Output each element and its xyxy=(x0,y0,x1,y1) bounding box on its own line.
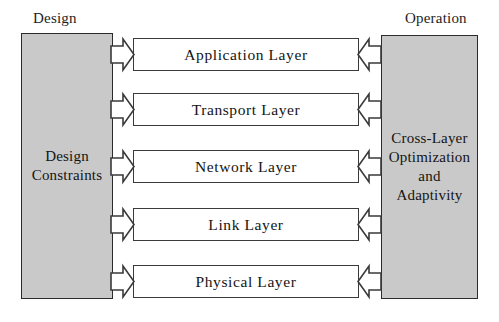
arrow-design-to-transport-icon xyxy=(111,94,135,125)
layer-label-link: Link Layer xyxy=(208,216,283,234)
layer-label-physical: Physical Layer xyxy=(196,273,297,291)
arrow-operation-to-transport-icon xyxy=(358,94,382,125)
design-constraints-label: Design Constraints xyxy=(30,147,105,185)
cross-layer-optimization-label: Cross-Layer Optimization and Adaptivity xyxy=(387,129,473,205)
layer-label-network: Network Layer xyxy=(195,158,297,176)
layer-label-application: Application Layer xyxy=(184,46,307,64)
design-constraints-block: Design Constraints xyxy=(21,33,113,299)
layer-box-network: Network Layer xyxy=(133,150,359,183)
arrow-design-to-physical-icon xyxy=(111,266,135,297)
arrow-design-to-network-icon xyxy=(111,151,135,182)
arrow-design-to-link-icon xyxy=(111,209,135,240)
layer-box-application: Application Layer xyxy=(133,38,359,71)
arrow-operation-to-link-icon xyxy=(358,209,382,240)
arrow-operation-to-physical-icon xyxy=(358,266,382,297)
layer-box-link: Link Layer xyxy=(133,208,359,241)
layer-box-physical: Physical Layer xyxy=(133,265,359,298)
diagram-canvas: Design Operation Design Constraints Cros… xyxy=(0,0,499,322)
arrow-operation-to-application-icon xyxy=(358,39,382,70)
layer-label-transport: Transport Layer xyxy=(192,101,301,119)
caption-design: Design xyxy=(33,9,77,27)
cross-layer-optimization-block: Cross-Layer Optimization and Adaptivity xyxy=(381,35,478,299)
arrow-design-to-application-icon xyxy=(111,39,135,70)
arrow-operation-to-network-icon xyxy=(358,151,382,182)
layer-box-transport: Transport Layer xyxy=(133,93,359,126)
caption-operation: Operation xyxy=(405,9,467,27)
